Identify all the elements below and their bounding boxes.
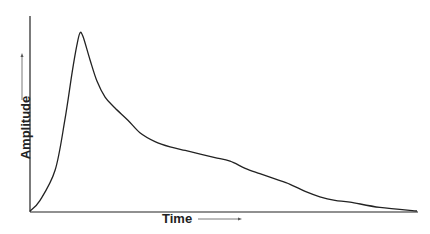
x-arrow-head [238, 218, 242, 221]
amplitude-curve [30, 32, 417, 211]
x-axis-label: Time [162, 211, 192, 226]
chart-canvas [0, 0, 430, 234]
y-arrow-head [21, 53, 24, 57]
y-axis-label: Amplitude [18, 96, 33, 160]
